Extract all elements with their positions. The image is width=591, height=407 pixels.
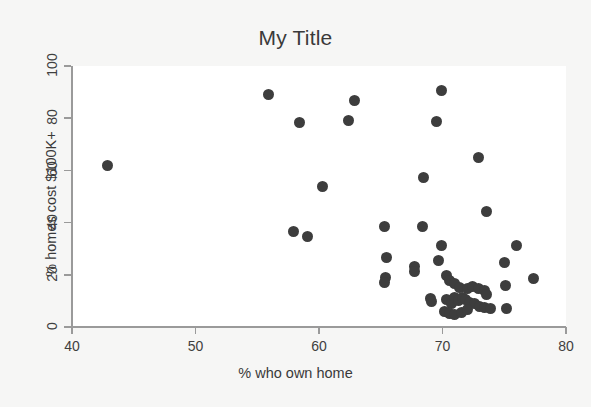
data-point [288, 226, 299, 237]
data-point [409, 266, 420, 277]
data-point [317, 181, 328, 192]
y-axis-tick-label: 80 [44, 97, 60, 137]
x-axis-tick-label: 70 [423, 338, 463, 354]
x-axis-tick [318, 327, 320, 334]
data-point [433, 255, 444, 266]
data-point [462, 304, 473, 315]
data-point [381, 252, 392, 263]
y-axis-tick [64, 65, 71, 67]
scatter-chart-figure: My Title % homes cost $100K+ % who own h… [0, 0, 591, 407]
x-axis-tick [442, 327, 444, 334]
data-points-layer [72, 66, 566, 327]
x-axis-label: % who own home [0, 365, 591, 381]
y-axis-tick [64, 170, 71, 172]
data-point [379, 221, 390, 232]
page-title: My Title [0, 26, 591, 50]
data-point [436, 85, 447, 96]
data-point [418, 172, 429, 183]
y-axis-tick-label: 20 [44, 254, 60, 294]
x-axis-tick-label: 80 [546, 338, 586, 354]
data-point [431, 116, 442, 127]
data-point [485, 303, 496, 314]
y-axis-tick [64, 117, 71, 119]
data-point [343, 115, 354, 126]
x-axis-tick-label: 50 [176, 338, 216, 354]
x-axis-tick [195, 327, 197, 334]
y-axis-tick [64, 274, 71, 276]
x-axis-tick-label: 40 [52, 338, 92, 354]
data-point [426, 296, 437, 307]
data-point [263, 89, 274, 100]
x-axis-tick [71, 327, 73, 334]
data-point [501, 303, 512, 314]
y-axis-tick-label: 100 [44, 45, 60, 85]
data-point [417, 221, 428, 232]
data-point [102, 160, 113, 171]
y-axis-tick [64, 222, 71, 224]
data-point [528, 273, 539, 284]
data-point [302, 231, 313, 242]
data-point [473, 152, 484, 163]
x-axis-tick-label: 60 [299, 338, 339, 354]
data-point [511, 240, 522, 251]
y-axis-tick-label: 60 [44, 149, 60, 189]
data-point [500, 280, 511, 291]
data-point [436, 240, 447, 251]
y-axis-tick [64, 326, 71, 328]
data-point [499, 257, 510, 268]
data-point [349, 95, 360, 106]
x-axis-tick [565, 327, 567, 334]
data-point [481, 289, 492, 300]
data-point [481, 206, 492, 217]
data-point [294, 117, 305, 128]
data-point [379, 277, 390, 288]
y-axis-tick-label: 40 [44, 202, 60, 242]
